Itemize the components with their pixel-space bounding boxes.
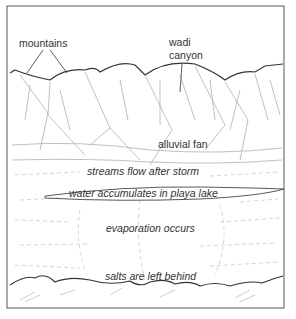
mountains-pointer bbox=[27, 50, 67, 73]
label-wadi: wadi bbox=[169, 37, 191, 48]
label-streams: streams flow after storm bbox=[87, 166, 199, 177]
label-evaporation: evaporation occurs bbox=[106, 223, 195, 234]
label-salts: salts are left behind bbox=[105, 271, 196, 282]
diagram-frame bbox=[7, 6, 284, 308]
mountain-hatching bbox=[12, 66, 282, 165]
label-canyon: canyon bbox=[169, 50, 203, 61]
wadi-pointer bbox=[180, 64, 182, 92]
label-alluvial-fan: alluvial fan bbox=[158, 139, 208, 150]
label-mountains: mountains bbox=[19, 38, 67, 49]
salt-hatching bbox=[20, 288, 255, 302]
label-playa: water accumulates in playa lake bbox=[69, 188, 218, 199]
